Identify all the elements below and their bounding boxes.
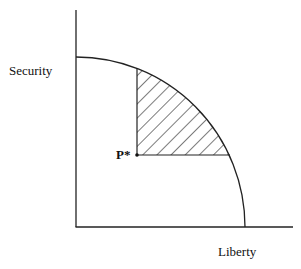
point-p-star: [135, 153, 139, 157]
point-label: P*: [116, 147, 130, 163]
hatched-region: [130, 55, 250, 160]
x-axis-label: Liberty: [218, 244, 256, 260]
y-axis-label: Security: [9, 63, 52, 79]
security-liberty-diagram: [0, 0, 301, 269]
